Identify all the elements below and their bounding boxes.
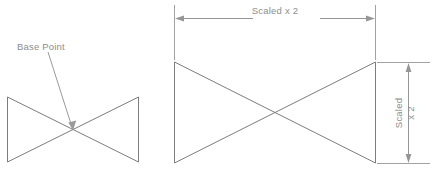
base-point-annotation-group: Base Point <box>17 41 76 131</box>
vertical-dimension-label-scaled: Scaled <box>393 98 404 128</box>
scale-diagram-canvas: Scale operation with base point Base Poi… <box>0 0 433 170</box>
vertical-dim-arrow-bottom-icon <box>406 154 412 163</box>
vertical-dimension-group: Scaled x 2 <box>377 63 430 164</box>
horizontal-dimension-group: Scaled x 2 <box>175 5 376 60</box>
horizontal-dim-arrow-right-icon <box>366 16 375 22</box>
vertical-dimension-label-factor: x 2 <box>405 106 416 119</box>
scale-diagram-svg: Scale operation with base point Base Poi… <box>0 0 433 170</box>
vertical-dim-arrow-top-icon <box>406 63 412 72</box>
base-point-leader-line <box>48 52 71 124</box>
horizontal-dim-arrow-left-icon <box>175 16 184 22</box>
horizontal-dimension-label: Scaled x 2 <box>252 5 298 16</box>
scaled-bowtie-group <box>175 62 376 163</box>
base-point-label: Base Point <box>17 41 65 52</box>
